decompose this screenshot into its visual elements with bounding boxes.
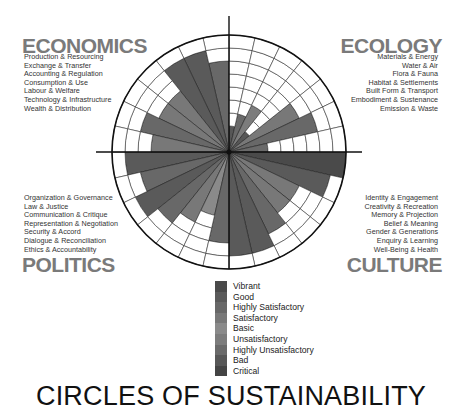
legend-swatch bbox=[215, 366, 227, 377]
legend-item: Critical bbox=[215, 366, 314, 377]
ecology-list: Materials & Energy Water & Air Flora & F… bbox=[351, 53, 438, 113]
legend-label: Bad bbox=[233, 355, 248, 366]
center-dot bbox=[227, 150, 232, 155]
legend-label: Highly Satisfactory bbox=[233, 302, 304, 313]
legend-swatch bbox=[215, 355, 227, 366]
legend-swatch bbox=[215, 313, 227, 324]
culture-list: Identity & Engagement Creativity & Recre… bbox=[365, 194, 439, 254]
legend-label: Unsatisfactory bbox=[233, 334, 287, 345]
wedge-empty-cell bbox=[125, 129, 140, 152]
legend-swatch bbox=[215, 302, 227, 313]
page-title: CIRCLES OF SUSTAINABILITY bbox=[0, 383, 462, 410]
legend-label: Vibrant bbox=[233, 281, 260, 292]
legend-swatch bbox=[215, 292, 227, 303]
legend-item: Highly Satisfactory bbox=[215, 302, 314, 313]
legend-label: Critical bbox=[233, 366, 259, 377]
legend-label: Good bbox=[233, 292, 254, 303]
wedge-empty-cell bbox=[292, 135, 307, 152]
legend-label: Highly Unsatisfactory bbox=[233, 345, 314, 356]
legend-swatch bbox=[215, 334, 227, 345]
economics-list: Production & Resourcing Exchange & Trans… bbox=[24, 53, 112, 113]
legend-swatch bbox=[215, 345, 227, 356]
ecology-item: Emission & Waste bbox=[351, 105, 438, 114]
wedge-empty-cell bbox=[280, 138, 294, 152]
wedge-empty-cell bbox=[138, 132, 153, 152]
legend-item: Highly Unsatisfactory bbox=[215, 345, 314, 356]
wedge-empty-cell bbox=[206, 241, 229, 256]
legend-item: Vibrant bbox=[215, 281, 314, 292]
wedge-empty-cell bbox=[305, 132, 320, 152]
legend: VibrantGoodHighly SatisfactorySatisfacto… bbox=[215, 281, 314, 376]
politics-title: POLITICS bbox=[22, 254, 115, 275]
legend-swatch bbox=[215, 281, 227, 292]
wedge-empty-cell bbox=[318, 129, 333, 152]
legend-swatch bbox=[215, 323, 227, 334]
wedge-empty-cell bbox=[229, 61, 249, 76]
wedge-empty-cell bbox=[229, 48, 252, 63]
legend-label: Satisfactory bbox=[233, 313, 278, 324]
legend-item: Basic bbox=[215, 323, 314, 334]
politics-list: Organization & Governance Law & Justice … bbox=[24, 194, 118, 254]
legend-item: Bad bbox=[215, 355, 314, 366]
legend-item: Unsatisfactory bbox=[215, 334, 314, 345]
wedge-empty-cell bbox=[206, 48, 229, 63]
legend-label: Basic bbox=[233, 323, 254, 334]
legend-item: Good bbox=[215, 292, 314, 303]
economics-item: Wealth & Distribution bbox=[24, 105, 112, 114]
legend-item: Satisfactory bbox=[215, 313, 314, 324]
culture-title: CULTURE bbox=[347, 254, 442, 275]
